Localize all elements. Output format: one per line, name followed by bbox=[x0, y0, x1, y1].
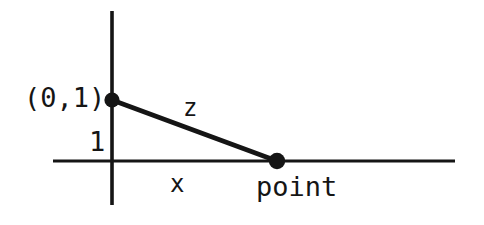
label-point: point bbox=[256, 173, 337, 200]
geometry-diagram-canvas: (0,1) 1 z x point bbox=[0, 0, 484, 225]
point-marker-origin-one bbox=[104, 92, 119, 107]
point-marker-point bbox=[269, 153, 285, 169]
label-base-x: x bbox=[170, 172, 184, 196]
label-coordinate-zero-one: (0,1) bbox=[24, 84, 105, 111]
label-hypotenuse-z: z bbox=[183, 96, 197, 120]
label-unit-length-one: 1 bbox=[89, 128, 105, 155]
